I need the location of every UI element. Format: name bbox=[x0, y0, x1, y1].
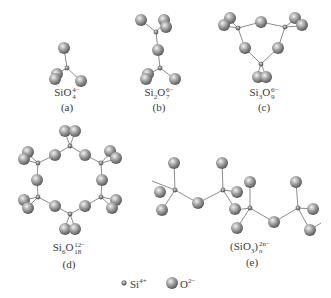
silicon-atom bbox=[283, 25, 287, 29]
structure-d-si6o18 bbox=[18, 125, 122, 235]
formula-e: (SiO3)2n−n bbox=[230, 240, 270, 255]
oxygen-atom bbox=[110, 152, 122, 164]
tag-a: (a) bbox=[61, 101, 73, 113]
formula-b: Si2O6−7 bbox=[144, 86, 173, 101]
structure-e-sio3-chain bbox=[152, 157, 321, 236]
structure-c-si3o9 bbox=[218, 12, 308, 83]
oxygen-atom bbox=[79, 149, 91, 161]
oxygen-atom bbox=[96, 174, 108, 186]
silicon-atom bbox=[99, 195, 103, 199]
oxygen-atom bbox=[69, 223, 81, 235]
oxygen-atom bbox=[231, 186, 243, 198]
oxygen-atom bbox=[239, 42, 251, 54]
oxygen-atom bbox=[160, 21, 172, 33]
oxygen-atom bbox=[168, 157, 180, 169]
silicate-structures-diagram bbox=[0, 0, 331, 298]
oxygen-atom bbox=[192, 197, 204, 209]
formula-c: Si3O6−9 bbox=[249, 86, 278, 101]
structure-b-si2o7 bbox=[135, 14, 181, 85]
silicon-atom bbox=[221, 188, 225, 192]
silicon-atom bbox=[259, 62, 263, 66]
oxygen-atom bbox=[229, 203, 241, 215]
silicon-atom bbox=[68, 144, 72, 148]
oxygen-atom bbox=[290, 176, 302, 188]
oxygen-atom bbox=[255, 16, 267, 28]
oxygen-atom bbox=[216, 157, 228, 169]
oxygen-atom bbox=[140, 73, 152, 85]
formula-d: Si6O12−18 bbox=[53, 241, 86, 256]
oxygen-atom bbox=[154, 186, 166, 198]
tag-e: (e) bbox=[246, 256, 258, 268]
oxygen-atom bbox=[49, 149, 61, 161]
silicon-atom bbox=[158, 66, 162, 70]
oxygen-atom bbox=[244, 176, 256, 188]
oxygen-atom bbox=[79, 200, 91, 212]
oxygen-atom bbox=[156, 204, 168, 216]
oxygen-atom bbox=[22, 202, 34, 214]
oxygen-atom bbox=[152, 44, 164, 56]
oxygen-atom bbox=[135, 14, 147, 26]
oxygen-atom bbox=[260, 71, 272, 83]
oxygen-atom bbox=[307, 203, 319, 215]
oxygen-atom bbox=[268, 216, 280, 228]
silicon-atom bbox=[65, 66, 69, 70]
formula-a: SiO4−4 bbox=[54, 86, 80, 100]
oxygen-atom bbox=[69, 125, 81, 137]
oxygen-atom bbox=[49, 73, 61, 85]
silicon-atom bbox=[173, 188, 177, 192]
silicon-atom bbox=[236, 26, 240, 30]
silicon-atom bbox=[248, 206, 252, 210]
silicon-atom bbox=[36, 195, 40, 199]
tag-c: (c) bbox=[258, 101, 270, 113]
structure-a-sio4 bbox=[49, 42, 87, 87]
legend-silicon-icon bbox=[122, 281, 127, 286]
legend-oxygen-icon bbox=[166, 277, 178, 289]
oxygen-atom bbox=[304, 224, 316, 236]
oxygen-atom bbox=[49, 200, 61, 212]
oxygen-atom bbox=[18, 153, 30, 165]
oxygen-atom bbox=[272, 42, 284, 54]
oxygen-atom bbox=[106, 202, 118, 214]
silicon-atom bbox=[99, 161, 103, 165]
oxygen-atom bbox=[218, 19, 230, 31]
legend-oxygen-label: O2− bbox=[180, 277, 195, 290]
silicon-atom bbox=[154, 30, 158, 34]
oxygen-atom bbox=[31, 174, 43, 186]
silicon-atom bbox=[36, 161, 40, 165]
silicon-atom bbox=[296, 206, 300, 210]
silicon-atom bbox=[68, 212, 72, 216]
oxygen-atom bbox=[296, 19, 308, 31]
tag-b: (b) bbox=[153, 101, 166, 113]
oxygen-atom bbox=[169, 73, 181, 85]
oxygen-atom bbox=[58, 42, 70, 54]
legend-silicon-label: Si4+ bbox=[130, 277, 147, 290]
tag-d: (d) bbox=[63, 258, 76, 270]
oxygen-atom bbox=[231, 222, 243, 234]
